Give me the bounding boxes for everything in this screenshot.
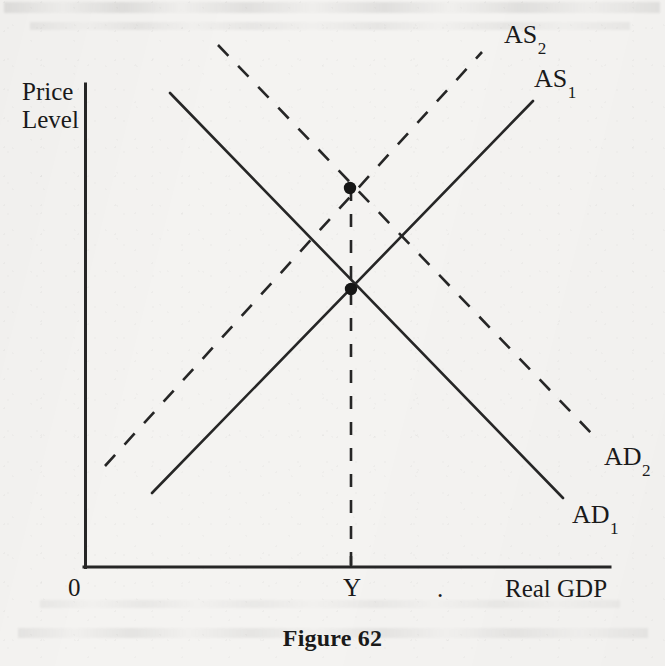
as-ad-diagram [0, 0, 665, 666]
ad1-curve-label-subscript: 1 [610, 519, 619, 538]
ad1-curve-label-text: AD [572, 500, 610, 529]
as1-curve-label-subscript: 1 [567, 83, 576, 102]
y-axis-label-line1: Price [22, 78, 79, 106]
as2-curve-label-subscript: 2 [537, 39, 546, 58]
stray-dot-mark: . [437, 576, 443, 601]
y-axis-label-line2: Level [22, 106, 79, 134]
figure-caption: Figure 62 [0, 625, 665, 652]
x-axis-label: Real GDP [505, 576, 607, 601]
as1-curve-label: AS1 [534, 66, 576, 92]
upper-equilibrium-point [344, 182, 356, 194]
ad1-curve-label: AD1 [572, 502, 619, 528]
as1-curve [152, 101, 533, 493]
as2-curve-label: AS2 [504, 22, 546, 48]
as1-curve-label-text: AS [534, 64, 567, 93]
ad1-curve [170, 93, 563, 498]
y-axis-label: Price Level [22, 78, 79, 134]
origin-label: 0 [68, 575, 81, 600]
ad2-curve-label: AD2 [604, 444, 651, 470]
lower-equilibrium-point [345, 283, 357, 295]
as2-curve-label-text: AS [504, 20, 537, 49]
ad2-curve [218, 45, 595, 437]
ad2-curve-label-text: AD [604, 442, 642, 471]
x-axis-tick-label-y: Y [343, 575, 361, 600]
ad2-curve-label-subscript: 2 [642, 461, 651, 480]
curves-solid-group [152, 93, 563, 498]
figure-page: Price Level AS2 AS1 AD2 AD1 0 Y . Real G… [0, 0, 665, 666]
axes-group [84, 84, 610, 568]
